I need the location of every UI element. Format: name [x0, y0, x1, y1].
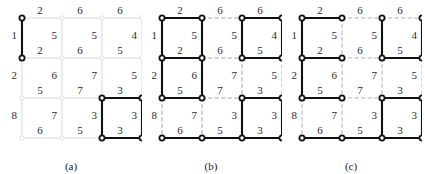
node-selected — [379, 15, 384, 20]
edge-weight-vertical: 1 — [12, 29, 18, 41]
edge-weight-horizontal: 7 — [357, 84, 363, 96]
node-selected — [299, 95, 304, 100]
edge-weight-vertical: 4 — [132, 29, 138, 41]
node-selected — [159, 95, 164, 100]
edge-weight-horizontal: 2 — [177, 4, 183, 16]
edge-weight-horizontal: 3 — [397, 84, 403, 96]
node-selected — [379, 55, 384, 60]
edge-weight-horizontal: 5 — [217, 124, 223, 136]
node-selected — [99, 95, 104, 100]
panel-b-caption: (b) — [140, 160, 282, 172]
edge-weight-horizontal: 2 — [317, 4, 323, 16]
edge-weight-horizontal: 6 — [357, 44, 363, 56]
node-selected — [299, 15, 304, 20]
node-selected — [159, 55, 164, 60]
graph-c: 266265573653155426758733 — [280, 0, 422, 150]
edge-weight-horizontal: 3 — [117, 84, 123, 96]
node-selected — [199, 15, 204, 20]
node — [60, 16, 64, 20]
node — [60, 56, 64, 60]
edge-weight-vertical: 3 — [272, 109, 278, 121]
edge-weight-horizontal: 7 — [217, 84, 223, 96]
edge-weight-horizontal: 5 — [357, 124, 363, 136]
edge-weight-horizontal: 6 — [217, 4, 223, 16]
node-selected — [379, 95, 384, 100]
edge-weight-vertical: 1 — [292, 29, 298, 41]
edge-weight-horizontal: 3 — [117, 124, 123, 136]
edge-weight-horizontal: 5 — [317, 84, 323, 96]
edge-weight-horizontal: 5 — [177, 84, 183, 96]
edge-weight-horizontal: 6 — [397, 4, 403, 16]
edge-weight-vertical: 5 — [132, 69, 138, 81]
node-selected — [199, 55, 204, 60]
node-selected — [299, 55, 304, 60]
node-selected — [419, 55, 422, 60]
edge-weight-vertical: 4 — [412, 29, 418, 41]
edge-weight-vertical: 3 — [372, 109, 378, 121]
node-selected — [239, 55, 244, 60]
edge-weight-vertical: 3 — [412, 109, 418, 121]
node-selected — [339, 95, 344, 100]
graph-b: 266265573653155426758733 — [140, 0, 282, 150]
edge-weight-vertical: 7 — [232, 69, 238, 81]
node-selected — [419, 95, 422, 100]
edge-weight-horizontal: 6 — [357, 4, 363, 16]
edge-weight-vertical: 4 — [272, 29, 278, 41]
edge-weight-horizontal: 2 — [317, 44, 323, 56]
edge-weight-horizontal: 3 — [397, 124, 403, 136]
edge-weight-vertical: 2 — [12, 69, 18, 81]
node-selected — [159, 135, 164, 140]
node — [20, 96, 24, 100]
edge-weight-vertical: 3 — [232, 109, 238, 121]
edge-weight-horizontal: 5 — [257, 44, 263, 56]
edge-weight-horizontal: 6 — [37, 124, 43, 136]
node-selected — [19, 55, 24, 60]
panel-a-caption: (a) — [0, 160, 142, 172]
node — [100, 16, 104, 20]
edge-weight-horizontal: 2 — [37, 4, 43, 16]
edge-weight-horizontal: 6 — [317, 124, 323, 136]
edge-weight-horizontal: 6 — [77, 44, 83, 56]
edge-weight-vertical: 7 — [372, 69, 378, 81]
edge-weight-vertical: 7 — [332, 109, 338, 121]
panel-c-caption: (c) — [280, 160, 422, 172]
panel-a: 266265573653155426758733 (a) — [0, 0, 142, 174]
edge-weight-horizontal: 5 — [397, 44, 403, 56]
edge-weight-vertical: 5 — [52, 29, 58, 41]
node-selected — [199, 135, 204, 140]
node-selected — [339, 15, 344, 20]
edge-weight-horizontal: 6 — [217, 44, 223, 56]
edge-weight-horizontal: 5 — [37, 84, 43, 96]
edge-weight-horizontal: 6 — [117, 4, 123, 16]
edge-weight-horizontal: 7 — [77, 84, 83, 96]
node-selected — [239, 135, 244, 140]
edge-weight-vertical: 5 — [272, 69, 278, 81]
edge-weight-vertical: 8 — [292, 109, 298, 121]
panel-b: 266265573653155426758733 (b) — [140, 0, 282, 174]
edge-weight-vertical: 7 — [192, 109, 198, 121]
edge-weight-horizontal: 5 — [117, 44, 123, 56]
node-selected — [159, 15, 164, 20]
node-selected — [339, 55, 344, 60]
node-selected — [339, 135, 344, 140]
edge-weight-horizontal: 5 — [77, 124, 83, 136]
edge-weight-vertical: 1 — [152, 29, 158, 41]
edge-weight-horizontal: 6 — [177, 124, 183, 136]
edge-weight-vertical: 6 — [332, 69, 338, 81]
node — [60, 96, 64, 100]
edge-weight-vertical: 2 — [152, 69, 158, 81]
edge-weight-horizontal: 3 — [257, 124, 263, 136]
panel-c: 266265573653155426758733 (c) — [280, 0, 422, 174]
edge-weight-vertical: 5 — [412, 69, 418, 81]
node-selected — [419, 135, 422, 140]
edge-weight-vertical: 6 — [52, 69, 58, 81]
edge-weight-horizontal: 6 — [257, 4, 263, 16]
edge-weight-horizontal: 6 — [77, 4, 83, 16]
edge-weight-vertical: 5 — [232, 29, 238, 41]
node-selected — [239, 95, 244, 100]
edge-weight-vertical: 2 — [292, 69, 298, 81]
node-selected — [239, 15, 244, 20]
edge-weight-vertical: 5 — [332, 29, 338, 41]
edge-weight-vertical: 6 — [192, 69, 198, 81]
edge-weight-vertical: 8 — [12, 109, 18, 121]
